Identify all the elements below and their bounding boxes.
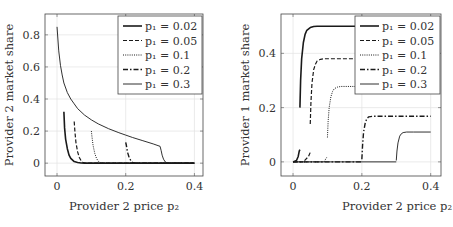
y-tick-label: 0 bbox=[269, 156, 276, 169]
x-tick-label: 0 bbox=[290, 180, 297, 193]
x-tick-label: 0 bbox=[54, 180, 61, 193]
series-line bbox=[396, 132, 430, 160]
legend-label: p₁ = 0.1 bbox=[145, 49, 190, 62]
y-axis-label: Provider 2 market share bbox=[2, 24, 16, 167]
series-line bbox=[362, 116, 431, 159]
y-axis-label: Provider 1 market share bbox=[238, 24, 252, 167]
series-p1-0_2 bbox=[126, 142, 195, 163]
left-chart-provider2-share: 00.20.4 00.20.40.60.8 Provider 2 price p… bbox=[2, 14, 203, 213]
y-tick-label: 0.2 bbox=[259, 102, 277, 115]
legend-label: p₁ = 0.02 bbox=[382, 20, 434, 33]
y-tick-label: 0.4 bbox=[259, 47, 277, 60]
series-line bbox=[293, 150, 300, 162]
legend-label: p₁ = 0.05 bbox=[145, 35, 197, 48]
legend-label: p₁ = 0.02 bbox=[145, 20, 197, 33]
x-axis-label: Provider 2 price p₂ bbox=[69, 199, 179, 213]
x-tick-label: 0.4 bbox=[422, 180, 440, 193]
legend-label: p₁ = 0.1 bbox=[382, 49, 427, 62]
y-tick-label: 0.8 bbox=[23, 29, 41, 42]
x-axis-label: Provider 2 price p₂ bbox=[342, 199, 452, 213]
legend-label: p₁ = 0.3 bbox=[382, 78, 427, 91]
legend-label: p₁ = 0.2 bbox=[145, 64, 190, 77]
legend-label: p₁ = 0.3 bbox=[145, 78, 190, 91]
legend-label: p₁ = 0.05 bbox=[382, 35, 434, 48]
x-tick-label: 0.2 bbox=[117, 180, 135, 193]
legend: p₁ = 0.02p₁ = 0.05p₁ = 0.1p₁ = 0.2p₁ = 0… bbox=[355, 16, 440, 94]
legend: p₁ = 0.02p₁ = 0.05p₁ = 0.1p₁ = 0.2p₁ = 0… bbox=[118, 16, 202, 94]
series-p1-0_1 bbox=[91, 131, 194, 163]
right-chart-provider1-share: 00.20.4 00.20.4 Provider 2 price p₂ Prov… bbox=[238, 14, 452, 213]
series-line bbox=[126, 142, 195, 163]
y-tick-label: 0.6 bbox=[23, 61, 41, 74]
legend-label: p₁ = 0.2 bbox=[382, 64, 427, 77]
y-tick-label: 0.4 bbox=[23, 93, 41, 106]
x-tick-label: 0.4 bbox=[186, 180, 204, 193]
figure: 00.20.4 00.20.40.60.8 Provider 2 price p… bbox=[0, 0, 453, 227]
y-tick-label: 0.2 bbox=[23, 125, 41, 138]
y-tick-label: 0 bbox=[33, 157, 40, 170]
x-tick-label: 0.2 bbox=[353, 180, 371, 193]
series-line bbox=[91, 131, 194, 163]
